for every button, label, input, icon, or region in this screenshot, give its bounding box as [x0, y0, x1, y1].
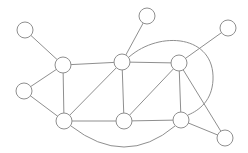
node-n10: [173, 112, 189, 128]
node-n9: [116, 113, 132, 129]
edge-n3-n8: [64, 62, 122, 121]
edge-n9-n10: [124, 120, 181, 121]
node-n4: [139, 8, 155, 24]
node-n1: [17, 22, 33, 38]
curved-edge-n3-n10: [129, 40, 213, 115]
edge-n2-n3: [63, 62, 122, 65]
node-n11: [217, 130, 233, 146]
edge-n3-n5: [122, 62, 179, 63]
node-n8: [56, 113, 72, 129]
graph-canvas: [0, 0, 248, 153]
nodes-layer: [16, 8, 236, 146]
edge-n5-n9: [124, 63, 179, 121]
node-n7: [16, 83, 32, 99]
edge-n5-n10: [179, 63, 181, 120]
node-n5: [171, 55, 187, 71]
curved-edges-layer: [71, 40, 213, 147]
node-n6: [220, 20, 236, 36]
node-n3: [114, 54, 130, 70]
graph-diagram: [0, 0, 248, 153]
node-n2: [55, 57, 71, 73]
edge-n5-n6: [179, 28, 228, 63]
edge-n3-n9: [122, 62, 124, 121]
